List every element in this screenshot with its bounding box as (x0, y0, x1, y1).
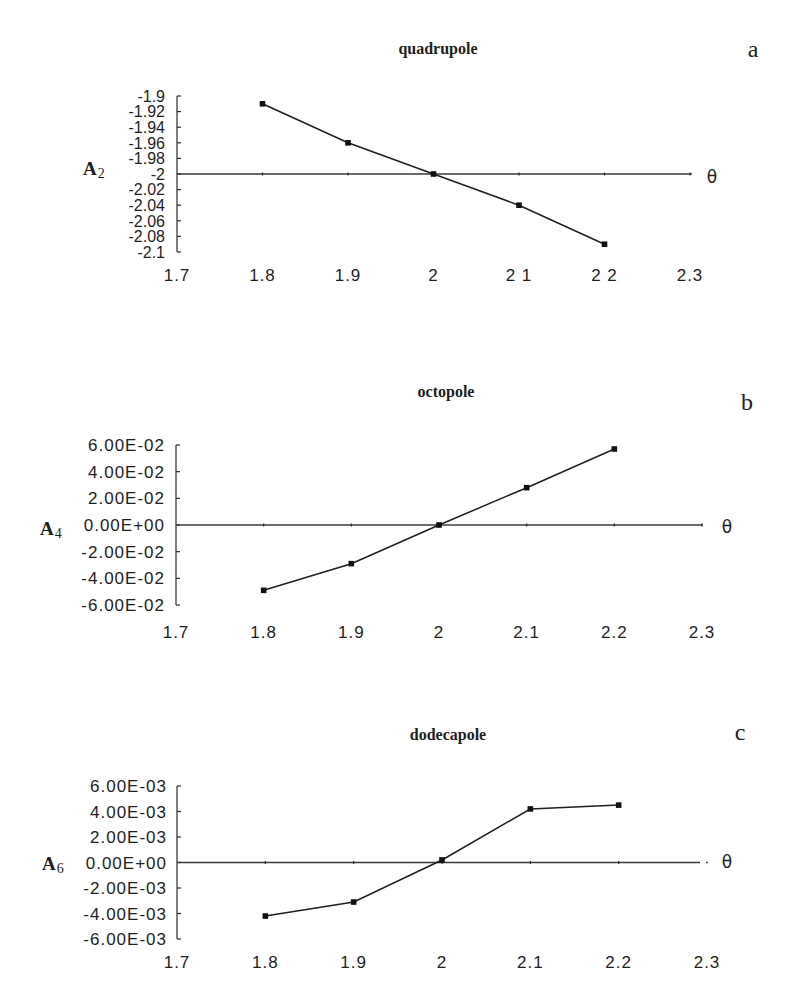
data-point-marker (260, 101, 266, 107)
panel-title: quadrupole (398, 40, 477, 58)
y-tick-label: -1.94 (129, 119, 166, 136)
x-tick-label: 2.3 (677, 266, 704, 285)
data-point-marker (524, 485, 530, 491)
y-axis-label-subscript: 6 (57, 861, 64, 876)
y-tick-label: 4.00E-03 (90, 803, 167, 822)
y-tick-label: -2 (151, 166, 165, 183)
y-tick-label: 6.00E-03 (90, 777, 167, 796)
data-point-marker (516, 202, 522, 208)
y-tick-label: -2.1 (137, 244, 165, 261)
y-axis-label-subscript: 4 (55, 526, 62, 541)
y-axis-label-subscript: 2 (98, 166, 105, 181)
y-tick-label: -6.00E-03 (83, 930, 167, 949)
y-tick-label: -2.00E-03 (83, 879, 167, 898)
y-axis-label: A2 (83, 158, 105, 181)
x-tick-label: 2.1 (513, 623, 540, 642)
data-point-marker (431, 171, 437, 177)
y-tick-label: 2.00E-02 (88, 489, 165, 508)
y-tick-label: -1.98 (129, 150, 166, 167)
y-tick-label: -6.00E-02 (81, 596, 165, 615)
data-point-marker (345, 140, 351, 146)
y-tick-label: -1.92 (129, 103, 166, 120)
data-point-marker (602, 241, 608, 247)
data-point-marker (528, 806, 534, 812)
x-tick-label: 2 (437, 953, 447, 972)
x-tick-label: 2.3 (694, 953, 721, 972)
x-tick-label: 2 (428, 266, 438, 285)
data-point-marker (351, 899, 357, 905)
data-point-marker (349, 561, 355, 567)
y-tick-label: -2.00E-02 (81, 543, 165, 562)
x-tick-label: 1.7 (163, 623, 190, 642)
x-tick-label: 1.8 (250, 623, 277, 642)
panel-title: octopole (418, 383, 475, 401)
panel-b: octopoleb6.00E-024.00E-022.00E-020.00E+0… (40, 383, 753, 642)
data-point-marker (263, 913, 269, 919)
y-tick-label: -2.08 (129, 228, 166, 245)
y-tick-label: -1.9 (137, 88, 165, 105)
x-tick-label: 2 (434, 623, 444, 642)
x-tick-label: 2 2 (591, 266, 618, 285)
x-axis-label: θ (722, 517, 732, 537)
x-tick-label: 2 1 (506, 266, 533, 285)
axis-end-dot (706, 862, 708, 864)
x-tick-label: 1.8 (252, 953, 279, 972)
y-axis-label-main: A (42, 853, 56, 874)
data-point-marker (612, 446, 618, 452)
y-tick-label: 2.00E-03 (90, 828, 167, 847)
x-tick-label: 2.2 (605, 953, 632, 972)
x-tick-label: 2.3 (689, 623, 716, 642)
y-tick-label: -4.00E-03 (83, 905, 167, 924)
x-tick-label: 1.8 (249, 266, 276, 285)
x-tick-label: 2.2 (601, 623, 628, 642)
y-tick-label: 0.00E+00 (84, 516, 165, 535)
panel-a: quadrupolea-1.9-1.92-1.94-1.96-1.98-2-2.… (83, 36, 759, 285)
x-tick-label: 1.7 (164, 953, 191, 972)
y-axis-label-main: A (40, 518, 54, 539)
data-point-marker (261, 588, 267, 594)
y-tick-label: -2.06 (129, 213, 166, 230)
y-tick-label: -1.96 (129, 135, 166, 152)
panel-letter: a (748, 36, 759, 62)
panel-c: dodecapolec6.00E-034.00E-032.00E-030.00E… (42, 719, 745, 972)
y-tick-label: 6.00E-02 (88, 436, 165, 455)
x-tick-label: 1.7 (164, 266, 191, 285)
y-axis-label-main: A (83, 158, 97, 179)
x-tick-label: 1.9 (335, 266, 362, 285)
y-axis-label: A4 (40, 518, 62, 541)
panel-letter: b (741, 389, 753, 415)
y-axis-label: A6 (42, 853, 64, 876)
y-tick-label: -2.04 (129, 197, 166, 214)
series-line-A4 (264, 449, 615, 590)
x-tick-label: 1.9 (338, 623, 365, 642)
data-point-marker (436, 522, 442, 528)
data-point-marker (616, 802, 622, 808)
x-tick-label: 2.1 (517, 953, 544, 972)
x-tick-label: 1.9 (340, 953, 367, 972)
y-tick-label: -4.00E-02 (81, 569, 165, 588)
y-tick-label: -2.02 (129, 181, 166, 198)
panel-title: dodecapole (410, 726, 486, 744)
data-point-marker (439, 857, 445, 863)
figure: quadrupolea-1.9-1.92-1.94-1.96-1.98-2-2.… (0, 0, 793, 1006)
x-axis-label: θ (707, 167, 717, 187)
panel-letter: c (735, 719, 746, 745)
y-tick-label: 0.00E+00 (86, 854, 167, 873)
y-tick-label: 4.00E-02 (88, 463, 165, 482)
x-axis-label: θ (722, 852, 732, 872)
